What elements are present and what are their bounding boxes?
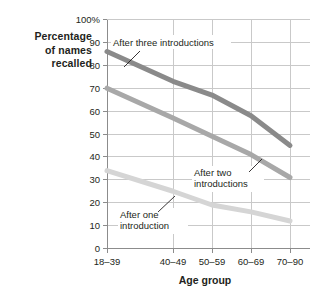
- annotation-one-label-line-1: After one: [120, 209, 159, 220]
- y-tick-label: 30: [89, 174, 100, 185]
- x-axis-tick-labels: 18–39 40–49 50–59 60–69 70–90: [94, 256, 303, 267]
- annotation-after-one-introduction: After one introduction: [118, 196, 188, 234]
- y-tick-label: 70: [89, 83, 100, 94]
- x-axis-title: Age group: [179, 274, 232, 286]
- y-tick-label: 50: [89, 129, 100, 140]
- annotation-two-label-line-1: After two: [194, 167, 232, 178]
- x-tick-label: 50–59: [199, 256, 225, 267]
- y-tick-label: 20: [89, 197, 100, 208]
- y-axis-tick-labels: 100% 90 80 70 60 50 40 30 20 10 0: [76, 14, 101, 254]
- y-tick-label: 60: [89, 106, 100, 117]
- annotation-one-label-line-2: introduction: [120, 220, 169, 231]
- x-tick-label: 40–49: [160, 256, 186, 267]
- annotation-three-label: After three introductions: [113, 37, 214, 48]
- y-tick-label: 10: [89, 220, 100, 231]
- y-tick-label: 80: [89, 60, 100, 71]
- y-tick-label: 0: [95, 243, 100, 254]
- y-tick-label: 100%: [76, 14, 101, 25]
- line-chart-plot: 100% 90 80 70 60 50 40 30 20 10 0 18–39 …: [0, 0, 323, 299]
- x-tick-label: 18–39: [94, 256, 120, 267]
- y-tick-label: 90: [89, 37, 100, 48]
- annotation-two-label-line-2: introductions: [194, 178, 248, 189]
- x-tick-label: 70–90: [277, 256, 303, 267]
- horizontal-gridlines: [107, 20, 310, 226]
- y-tick-label: 40: [89, 151, 100, 162]
- x-tick-label: 60–69: [238, 256, 264, 267]
- annotation-after-two-introductions: After two introductions: [192, 159, 264, 192]
- chart-container: Percentage of names recalled: [0, 0, 323, 299]
- series-line-after-two-introductions: [107, 88, 290, 177]
